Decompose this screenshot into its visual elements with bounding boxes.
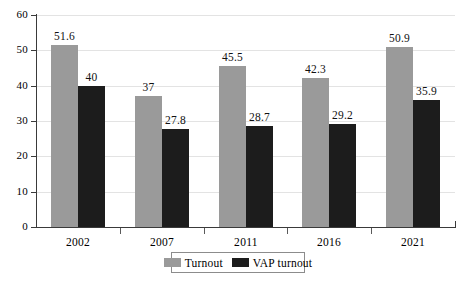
y-tick-label-text: 20 bbox=[2, 150, 28, 161]
y-tick-label-text: 30 bbox=[2, 115, 28, 126]
legend-label-vap-turnout: VAP turnout bbox=[253, 257, 312, 269]
y-tick-label: 60 bbox=[0, 9, 28, 20]
bar bbox=[302, 78, 329, 227]
bar bbox=[386, 47, 413, 227]
x-axis-right-cap bbox=[455, 221, 456, 228]
legend-swatch-vap-turnout bbox=[232, 258, 249, 267]
bar-value-label: 40 bbox=[70, 71, 114, 83]
legend-swatch-turnout bbox=[164, 258, 181, 267]
bar bbox=[413, 100, 440, 227]
x-axis-line bbox=[36, 227, 456, 228]
bar-chart: 0102030405060 51.6403727.845.528.742.329… bbox=[0, 0, 471, 288]
bar-value-label: 29.2 bbox=[321, 109, 365, 121]
gridline bbox=[36, 15, 455, 16]
y-tick-label-text: 10 bbox=[2, 186, 28, 197]
y-tick-label-text: 40 bbox=[2, 80, 28, 91]
bar bbox=[162, 129, 189, 227]
x-tick-label: 2011 bbox=[216, 235, 276, 249]
x-tick-mark bbox=[287, 228, 288, 234]
bar bbox=[219, 66, 246, 227]
y-tick-label: 50 bbox=[0, 44, 28, 55]
y-tick-label: 30 bbox=[0, 115, 28, 126]
x-tick-label: 2021 bbox=[383, 235, 443, 249]
y-tick-label: 10 bbox=[0, 186, 28, 197]
bar-value-label: 51.6 bbox=[43, 30, 87, 42]
bar bbox=[246, 126, 273, 227]
bar-value-label: 37 bbox=[127, 81, 171, 93]
bar bbox=[329, 124, 356, 227]
x-tick-mark bbox=[204, 228, 205, 234]
y-tick-label-text: 60 bbox=[2, 9, 28, 20]
y-tick-label: 40 bbox=[0, 80, 28, 91]
legend-item-vap-turnout[interactable]: VAP turnout bbox=[232, 257, 312, 269]
bar-value-label: 42.3 bbox=[294, 63, 338, 75]
bar-value-label: 28.7 bbox=[238, 111, 282, 123]
legend-item-turnout[interactable]: Turnout bbox=[164, 257, 223, 269]
x-tick-label: 2002 bbox=[48, 235, 108, 249]
bar-value-label: 45.5 bbox=[211, 51, 255, 63]
legend-label-turnout: Turnout bbox=[185, 257, 223, 269]
x-tick-label: 2007 bbox=[132, 235, 192, 249]
bar-value-label: 50.9 bbox=[378, 32, 422, 44]
bar-value-label: 35.9 bbox=[405, 85, 449, 97]
x-tick-mark bbox=[120, 228, 121, 234]
chart-legend: Turnout VAP turnout bbox=[171, 252, 305, 273]
y-tick-label: 20 bbox=[0, 150, 28, 161]
x-tick-mark bbox=[371, 228, 372, 234]
x-tick-label: 2016 bbox=[299, 235, 359, 249]
y-tick-label-text: 50 bbox=[2, 44, 28, 55]
y-axis-line bbox=[36, 14, 37, 228]
y-tick-label: 0 bbox=[0, 221, 28, 232]
y-tick-label-text: 0 bbox=[2, 221, 28, 232]
bar-value-label: 27.8 bbox=[154, 114, 198, 126]
bar bbox=[78, 86, 105, 227]
